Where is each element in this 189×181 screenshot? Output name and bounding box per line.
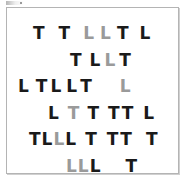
stimulus-letter-l: L [140,25,151,42]
visual-search-stimulus-figure: TTLLTLTLLTLTLLTLLTTTTLTLLLTTTTLLLT [0,0,189,181]
stimulus-row: LTLLTL [7,75,189,97]
stimulus-letter-t: T [119,52,131,69]
stimulus-letter-t: T [146,131,158,148]
stimulus-letter-t: T [36,78,48,95]
stimulus-letter-l: L [90,52,101,69]
stimulus-letter-t: T [108,105,120,122]
stimulus-letter-t: T [68,105,80,122]
stimulus-letter-t: T [70,52,82,69]
stimulus-letter-l: L [48,105,59,122]
stimulus-letter-t: T [120,131,132,148]
stimulus-letter-l: L [53,131,64,148]
stimulus-letter-l: L [78,158,89,175]
stimulus-letter-t: T [33,25,45,42]
stimulus-letter-l: L [104,52,115,69]
stimulus-letter-l: L [18,78,29,95]
stimulus-letter-l: L [90,158,101,175]
stimulus-letter-t: T [122,105,134,122]
stimulus-letter-t: T [59,25,71,42]
stimulus-letter-t: T [80,78,92,95]
stimulus-letter-l: L [50,78,61,95]
stimulus-letter-t: T [126,158,138,175]
stimulus-row: TTLLTL [7,22,189,44]
stimulus-letter-l: L [42,131,53,148]
stimulus-letter-t: T [85,131,97,148]
scan-artifact-smudge [6,1,32,5]
stimulus-letter-t: T [117,25,129,42]
stimulus-letter-l: L [143,105,154,122]
scan-artifact-dot [20,2,22,4]
stimulus-row: TLLT [7,49,189,71]
stimulus-letter-t: T [107,131,119,148]
stimulus-letter-t: T [87,105,99,122]
stimulus-row: TLLLTTTT [7,128,189,150]
stimulus-row: LTTTTL [7,102,189,124]
stimulus-letter-l: L [100,25,111,42]
stimulus-letter-l: L [120,78,131,95]
stimulus-letter-l: L [66,78,77,95]
stimulus-letter-l: L [65,131,76,148]
stimulus-row: LLLT [7,155,189,177]
stimulus-letter-t: T [29,131,41,148]
stimulus-letter-l: L [83,25,94,42]
stimulus-display-frame: TTLLTLTLLTLTLLTLLTTTTLTLLLTTTTLLLT [6,7,179,174]
stimulus-letter-l: L [66,158,77,175]
